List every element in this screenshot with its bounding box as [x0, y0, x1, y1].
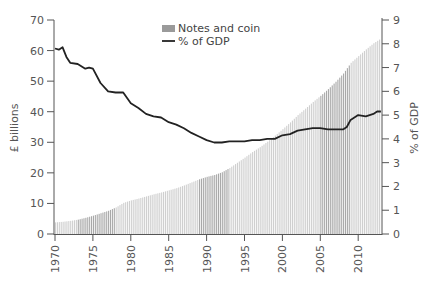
bar [296, 117, 297, 234]
bar [72, 221, 73, 234]
tick-label: 4 [393, 133, 400, 146]
tick-label: 40 [30, 106, 44, 119]
tick-label: 9 [393, 14, 400, 27]
bar [209, 176, 210, 234]
bar [61, 222, 62, 234]
bar [201, 179, 202, 234]
bar [131, 200, 132, 234]
chart: 010203040506070 0123456789 1970197519801… [0, 0, 430, 286]
bar [78, 220, 79, 234]
bar [371, 45, 372, 234]
bar [265, 143, 266, 234]
bar [290, 122, 291, 234]
bar [347, 68, 348, 234]
bar [123, 203, 124, 234]
bar [199, 179, 200, 234]
bar [133, 200, 134, 234]
bar [339, 78, 340, 234]
tick-label: 1975 [87, 245, 100, 273]
bar [366, 49, 367, 234]
bar [279, 132, 280, 234]
bar [104, 212, 105, 234]
bar [263, 144, 264, 234]
bar [154, 194, 155, 234]
bar [241, 160, 242, 234]
bar [248, 155, 249, 234]
bar [231, 167, 232, 234]
tick-label: 20 [30, 167, 44, 180]
bar [205, 177, 206, 234]
bar [360, 54, 361, 234]
tick-label: 2 [393, 180, 400, 193]
bar [281, 131, 282, 234]
bar [254, 151, 255, 234]
bar [354, 59, 355, 234]
bar [282, 129, 283, 234]
bar [167, 191, 168, 234]
bar [186, 185, 187, 234]
right-y-axis-label: % of GDP [408, 102, 421, 154]
bar [224, 171, 225, 234]
bar [284, 127, 285, 234]
bar [235, 164, 236, 234]
bar [243, 159, 244, 234]
bar [55, 222, 56, 234]
bar [97, 214, 98, 234]
bar [68, 221, 69, 234]
bar [335, 82, 336, 234]
tick-label: 2005 [314, 245, 327, 273]
bar [106, 211, 107, 234]
bar [337, 80, 338, 234]
tick-label: 1990 [201, 245, 214, 273]
bar [277, 134, 278, 234]
bar-series-notes-and-coin [55, 40, 380, 234]
bar [330, 87, 331, 234]
bar [227, 169, 228, 234]
bar [80, 219, 81, 234]
bar [110, 210, 111, 234]
bar [108, 211, 109, 234]
bar [328, 89, 329, 234]
bar [95, 215, 96, 234]
bar [121, 204, 122, 234]
bar [74, 220, 75, 234]
bar [148, 196, 149, 234]
tick-label: 7 [393, 62, 400, 75]
bar [87, 217, 88, 234]
bar [356, 58, 357, 234]
bar [341, 76, 342, 234]
bar [307, 107, 308, 234]
tick-label: 0 [37, 228, 44, 241]
bar [373, 43, 374, 234]
tick-label: 10 [30, 197, 44, 210]
legend-label-notes-and-coin: Notes and coin [178, 22, 260, 35]
bar [318, 97, 319, 234]
bar [114, 208, 115, 234]
x-axis-ticks: 197019751980198519901995200020052010 [49, 234, 365, 273]
bar [320, 96, 321, 234]
bar [262, 146, 263, 234]
bar [174, 189, 175, 234]
bar [222, 172, 223, 234]
bar [250, 153, 251, 234]
bar [273, 137, 274, 234]
bar [292, 121, 293, 234]
bar [180, 187, 181, 234]
bar [165, 191, 166, 234]
bar [288, 124, 289, 234]
bar [150, 195, 151, 234]
bar [163, 192, 164, 234]
bar [379, 40, 380, 234]
bar [332, 85, 333, 234]
bar [82, 219, 83, 234]
bar [161, 192, 162, 234]
bar [59, 222, 60, 234]
bar [311, 104, 312, 234]
bar [322, 94, 323, 234]
bar [91, 216, 92, 234]
bar [362, 53, 363, 234]
bar [152, 195, 153, 234]
bar [294, 119, 295, 234]
bar [182, 186, 183, 234]
bar [275, 136, 276, 234]
